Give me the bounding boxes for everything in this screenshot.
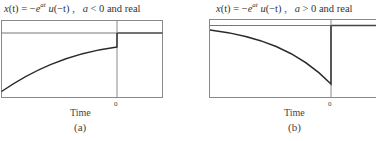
panel-label: (a) [74, 121, 86, 133]
panel-b-plot [188, 0, 376, 141]
plot-frame [2, 21, 163, 98]
signal-curve [2, 33, 118, 92]
panel-a-plot [0, 0, 188, 141]
x-tick-zero: 0 [114, 100, 118, 108]
signal-curve [210, 26, 331, 85]
x-axis-label: Time [70, 107, 91, 118]
panel-a: x(t) = −eat u(−t) , a < 0 and real 0 Tim… [0, 0, 188, 141]
panel-label: (b) [288, 121, 301, 133]
plot-frame [210, 20, 376, 98]
x-tick-zero: 0 [328, 100, 332, 108]
panel-b: x(t) = −eat u(−t) , a > 0 and real 0 Tim… [188, 0, 376, 141]
x-axis-label: Time [284, 107, 305, 118]
